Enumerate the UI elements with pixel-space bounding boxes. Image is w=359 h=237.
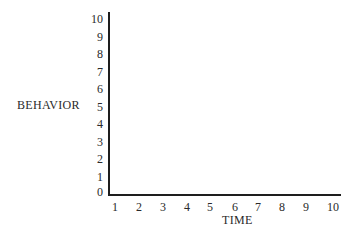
x-axis-label: TIME <box>222 213 253 228</box>
y-tick-label: 5 <box>83 101 103 113</box>
y-axis-line <box>108 12 110 196</box>
x-tick-label: 8 <box>272 201 292 213</box>
x-tick-label: 6 <box>225 201 245 213</box>
x-tick-label: 7 <box>248 201 268 213</box>
y-axis-label: BEHAVIOR <box>17 98 80 113</box>
y-tick-label: 10 <box>83 13 103 25</box>
y-tick-label: 9 <box>83 31 103 43</box>
y-tick-label: 2 <box>83 153 103 165</box>
y-tick-label: 4 <box>83 118 103 130</box>
x-tick-label: 5 <box>200 201 220 213</box>
x-tick-label: 3 <box>153 201 173 213</box>
y-tick-label: 0 <box>83 186 103 198</box>
x-tick-label: 1 <box>105 201 125 213</box>
y-tick-label: 6 <box>83 83 103 95</box>
x-axis-line <box>108 194 341 196</box>
y-tick-label: 8 <box>83 48 103 60</box>
x-tick-label: 10 <box>323 201 343 213</box>
y-tick-label: 1 <box>83 171 103 183</box>
blank-behavior-chart: BEHAVIOR TIME 10 9 8 7 6 5 4 3 2 1 0 1 2… <box>0 0 359 237</box>
y-tick-label: 7 <box>83 66 103 78</box>
x-tick-label: 2 <box>129 201 149 213</box>
x-tick-label: 9 <box>296 201 316 213</box>
y-tick-label: 3 <box>83 136 103 148</box>
x-tick-label: 4 <box>177 201 197 213</box>
